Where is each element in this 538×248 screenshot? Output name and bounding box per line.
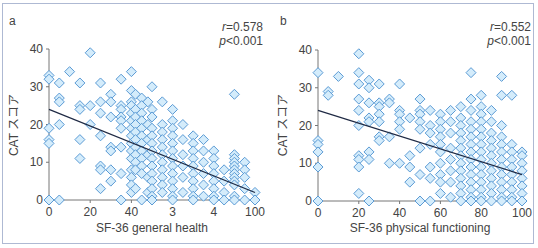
data-point-marker	[476, 90, 486, 100]
data-point-marker	[486, 105, 496, 115]
data-point-marker	[157, 187, 167, 197]
x-tick-label: 60	[434, 206, 448, 220]
data-point-marker	[54, 195, 64, 205]
data-point-marker	[313, 196, 323, 206]
y-axis-b: 010203040	[299, 43, 318, 208]
y-axis-label-b: CAT スコア	[276, 94, 290, 156]
data-point-marker	[435, 188, 445, 198]
data-point-marker	[250, 195, 260, 205]
data-point-marker	[116, 74, 126, 84]
data-point-marker	[199, 135, 209, 145]
data-point-marker	[435, 177, 445, 187]
x-tick-label: 4	[210, 205, 217, 219]
data-point-marker	[354, 94, 364, 104]
data-point-marker	[405, 162, 415, 172]
data-point-marker	[415, 124, 425, 134]
data-point-marker	[364, 83, 374, 93]
y-axis-label-a: CAT スコア	[7, 94, 21, 156]
data-point-marker	[106, 176, 116, 186]
data-point-marker	[96, 97, 106, 107]
y-axis-a: 010203040	[30, 42, 49, 207]
x-tick-label: 0	[46, 205, 53, 219]
data-point-marker	[116, 142, 126, 152]
data-point-marker	[54, 78, 64, 88]
data-point-marker	[137, 195, 147, 205]
x-tick-label: 100	[245, 205, 265, 219]
data-point-marker	[374, 117, 384, 127]
data-point-marker	[96, 78, 106, 88]
p-annotation-b: p<0.001	[486, 34, 531, 48]
data-point-marker	[116, 123, 126, 133]
data-point-marker	[354, 162, 364, 172]
data-point-marker	[456, 196, 466, 206]
data-point-marker	[65, 67, 75, 77]
data-point-marker	[199, 157, 209, 167]
data-point-marker	[354, 105, 364, 115]
data-point-marker	[415, 196, 425, 206]
data-point-marker	[405, 151, 415, 161]
y-tick-label: 30	[30, 80, 44, 94]
data-point-marker	[425, 162, 435, 172]
data-point-marker	[75, 153, 85, 163]
data-point-marker	[446, 117, 456, 127]
data-point-marker	[219, 165, 229, 175]
data-point-marker	[364, 196, 374, 206]
data-point-marker	[395, 79, 405, 89]
data-point-marker	[466, 105, 476, 115]
data-point-marker	[384, 158, 394, 168]
data-point-marker	[507, 90, 517, 100]
data-point-marker	[405, 177, 415, 187]
data-points-b	[313, 49, 527, 206]
r-annotation-a: r=0.578	[222, 20, 263, 34]
data-point-marker	[374, 79, 384, 89]
data-point-marker	[168, 104, 178, 114]
data-point-marker	[219, 195, 229, 205]
data-point-marker	[85, 48, 95, 58]
x-tick-label: 20	[84, 205, 98, 219]
data-point-marker	[54, 120, 64, 130]
data-point-marker	[497, 71, 507, 81]
x-tick-label: 80	[475, 206, 489, 220]
data-point-marker	[106, 112, 116, 122]
data-point-marker	[446, 105, 456, 115]
data-point-marker	[96, 131, 106, 141]
data-point-marker	[486, 117, 496, 127]
scatter-figure: a r=0.578 p<0.001 010203040 0204034100 S…	[0, 0, 538, 248]
data-point-marker	[486, 196, 496, 206]
data-point-marker	[466, 94, 476, 104]
data-point-marker	[75, 135, 85, 145]
data-point-marker	[517, 196, 527, 206]
x-tick-label: 40	[125, 205, 139, 219]
data-point-marker	[313, 147, 323, 157]
y-tick-label: 10	[299, 156, 313, 170]
panel-label-b: b	[280, 14, 287, 28]
data-point-marker	[354, 68, 364, 78]
data-point-marker	[75, 78, 85, 88]
data-point-marker	[395, 158, 405, 168]
data-point-marker	[446, 166, 456, 176]
data-point-marker	[405, 113, 415, 123]
panel-label-a: a	[9, 14, 16, 28]
panel-a: a r=0.578 p<0.001 010203040 0204034100 S…	[7, 14, 265, 235]
y-tick-label: 40	[30, 42, 44, 56]
data-point-marker	[106, 97, 116, 107]
data-point-marker	[157, 97, 167, 107]
data-point-marker	[44, 195, 54, 205]
data-point-marker	[44, 123, 54, 133]
y-tick-label: 0	[305, 194, 312, 208]
y-tick-label: 10	[30, 155, 44, 169]
data-point-marker	[354, 49, 364, 59]
data-point-marker	[354, 188, 364, 198]
data-point-marker	[354, 79, 364, 89]
data-point-marker	[415, 143, 425, 153]
y-tick-label: 40	[299, 43, 313, 57]
data-point-marker	[178, 187, 188, 197]
data-point-marker	[126, 67, 136, 77]
data-point-marker	[199, 180, 209, 190]
data-point-marker	[96, 184, 106, 194]
data-point-marker	[497, 121, 507, 131]
data-point-marker	[240, 172, 250, 182]
data-point-marker	[199, 146, 209, 156]
data-point-marker	[178, 120, 188, 130]
data-point-marker	[364, 98, 374, 108]
